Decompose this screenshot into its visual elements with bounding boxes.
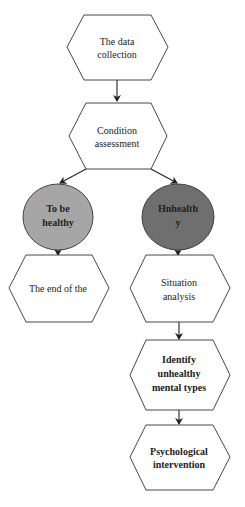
- hexagon-shape: [130, 255, 230, 322]
- node-label-line3: mental types: [152, 382, 206, 393]
- node-label-line2: y: [176, 217, 181, 228]
- node-label-line1: The data: [100, 36, 135, 47]
- node-end: The end of the: [9, 255, 109, 322]
- node-identify-types: Identify unhealthy mental types: [130, 340, 230, 410]
- node-label-line1: Psychological: [150, 446, 208, 457]
- node-label-line1: Situation: [161, 277, 197, 288]
- node-situation-analysis: Situation analysis: [130, 255, 230, 322]
- flowchart-canvas: The data collection Condition assessment…: [0, 0, 245, 507]
- node-label-line1: Hnhealth: [158, 203, 198, 214]
- node-unhealthy: Hnhealth y: [142, 184, 214, 250]
- node-condition-assessment: Condition assessment: [69, 103, 167, 169]
- hexagon-shape: [130, 425, 230, 490]
- node-label-line2: healthy: [42, 217, 74, 228]
- node-label-line1: The end of the: [29, 283, 88, 294]
- hexagon-shape: [67, 15, 168, 80]
- node-label-line2: intervention: [153, 459, 206, 470]
- hexagon-shape: [69, 103, 167, 169]
- node-psych-intervention: Psychological intervention: [130, 425, 230, 490]
- node-label-line1: To be: [46, 203, 70, 214]
- node-label-line2: analysis: [163, 291, 195, 302]
- node-label-line2: assessment: [95, 138, 140, 149]
- node-label-line2: collection: [97, 49, 136, 60]
- node-data-collection: The data collection: [67, 15, 168, 80]
- edge-condition-to-unhealthy: [151, 169, 177, 183]
- edge-condition-to-healthy: [60, 169, 86, 183]
- node-label-line2: unhealthy: [158, 368, 201, 379]
- node-label-line1: Identify: [162, 354, 196, 365]
- node-label-line1: Condition: [97, 125, 137, 136]
- node-to-be-healthy: To be healthy: [23, 184, 93, 250]
